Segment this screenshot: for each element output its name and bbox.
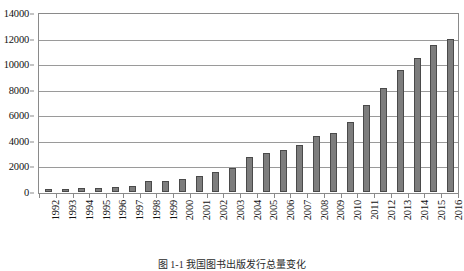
y-axis: 02000400060008000100001200014000: [0, 13, 34, 194]
bar: [447, 39, 454, 192]
x-tick-mark: [207, 194, 208, 198]
bar: [430, 45, 437, 192]
x-tick-mark: [106, 194, 107, 198]
x-tick-label: 1994: [85, 200, 96, 220]
bar: [414, 58, 421, 192]
x-tick-mark: [408, 194, 409, 198]
x-tick-mark: [257, 194, 258, 198]
bar: [363, 105, 370, 192]
x-tick-label: 1999: [169, 200, 180, 220]
x-tick-mark: [173, 194, 174, 198]
x-tick-mark: [374, 194, 375, 198]
y-tick-mark: [30, 39, 34, 40]
bar: [112, 187, 119, 192]
figure: 02000400060008000100001200014000 1992199…: [0, 0, 464, 271]
x-tick-label: 2014: [420, 200, 431, 220]
y-tick-mark: [30, 116, 34, 117]
bar: [280, 150, 287, 192]
x-tick-mark: [290, 194, 291, 198]
bar: [162, 181, 169, 193]
y-tick-mark: [30, 141, 34, 142]
x-tick-mark: [240, 194, 241, 198]
y-tick-label: 14000: [4, 9, 29, 20]
bar: [212, 172, 219, 192]
x-tick-mark: [140, 194, 141, 198]
bar: [78, 188, 85, 192]
bar: [246, 157, 253, 192]
x-tick-mark: [357, 194, 358, 198]
x-tick-label: 2002: [219, 200, 230, 220]
plot-frame: [38, 13, 459, 194]
x-tick-label: 1996: [118, 200, 129, 220]
y-tick-mark: [30, 65, 34, 66]
bar: [95, 188, 102, 192]
bar: [145, 181, 152, 192]
y-tick-label: 0: [24, 188, 29, 199]
x-tick-label: 2012: [387, 200, 398, 220]
x-tick-mark: [39, 194, 40, 198]
x-axis: 1992199319941995199619971998199920002001…: [38, 194, 459, 252]
x-tick-mark: [307, 194, 308, 198]
x-tick-label: 1992: [51, 200, 62, 220]
x-tick-mark: [123, 194, 124, 198]
x-tick-label: 2003: [236, 200, 247, 220]
y-tick-label: 4000: [9, 137, 29, 148]
bar: [397, 70, 404, 192]
x-tick-mark: [274, 194, 275, 198]
x-tick-mark: [441, 194, 442, 198]
x-tick-label: 2013: [403, 200, 414, 220]
y-tick-label: 8000: [9, 85, 29, 96]
x-tick-label: 1993: [68, 200, 79, 220]
x-tick-label: 2015: [437, 200, 448, 220]
x-tick-mark: [424, 194, 425, 198]
x-tick-mark: [89, 194, 90, 198]
y-tick-mark: [30, 14, 34, 15]
x-tick-mark: [324, 194, 325, 198]
figure-caption: 图 1-1 我国图书出版发行总量变化: [0, 259, 464, 271]
y-tick-mark: [30, 193, 34, 194]
y-tick-label: 6000: [9, 111, 29, 122]
x-tick-mark: [56, 194, 57, 198]
x-tick-mark: [458, 194, 459, 198]
bar: [62, 189, 69, 192]
x-tick-label: 1997: [135, 200, 146, 220]
x-tick-mark: [156, 194, 157, 198]
x-tick-label: 2009: [336, 200, 347, 220]
x-tick-label: 2004: [253, 200, 264, 220]
x-tick-label: 2006: [286, 200, 297, 220]
x-tick-label: 2008: [320, 200, 331, 220]
chart-plot-area: [38, 13, 459, 194]
x-tick-mark: [341, 194, 342, 198]
x-tick-mark: [73, 194, 74, 198]
x-tick-label: 2001: [202, 200, 213, 220]
x-tick-label: 2007: [303, 200, 314, 220]
bar: [380, 88, 387, 192]
y-tick-mark: [30, 167, 34, 168]
x-tick-label: 2016: [454, 200, 464, 220]
x-tick-mark: [190, 194, 191, 198]
bar: [296, 145, 303, 192]
x-tick-label: 2010: [353, 200, 364, 220]
bar: [179, 179, 186, 192]
y-tick-mark: [30, 90, 34, 91]
x-tick-label: 2005: [269, 200, 280, 220]
x-tick-label: 2000: [185, 200, 196, 220]
y-tick-label: 12000: [4, 34, 29, 45]
bar: [330, 133, 337, 192]
bar: [229, 168, 236, 192]
bar: [129, 186, 136, 192]
bar: [313, 136, 320, 192]
bar: [263, 153, 270, 192]
x-tick-label: 1995: [102, 200, 113, 220]
bar: [196, 176, 203, 192]
bar-series: [40, 15, 457, 192]
x-tick-mark: [391, 194, 392, 198]
y-tick-label: 2000: [9, 162, 29, 173]
bar: [45, 189, 52, 192]
bar: [347, 122, 354, 192]
x-tick-mark: [223, 194, 224, 198]
x-tick-label: 1998: [152, 200, 163, 220]
y-tick-label: 10000: [4, 60, 29, 71]
x-tick-label: 2011: [370, 200, 381, 220]
